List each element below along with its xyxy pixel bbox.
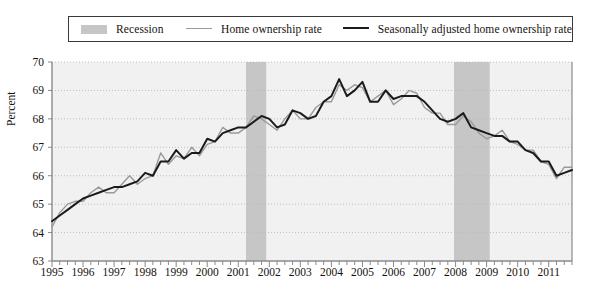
x-tick-label-2005: 2005 [351,266,374,278]
y-tick-label-65: 65 [20,198,44,210]
figure: Recession Home ownership rate Seasonally… [0,0,592,292]
x-tick-label-1997: 1997 [103,266,126,278]
x-tick-label-1996: 1996 [72,266,95,278]
x-tick-label-2002: 2002 [258,266,281,278]
plot-background [52,62,572,261]
x-tick-label-2000: 2000 [196,266,219,278]
x-tick-label-2011: 2011 [537,266,560,278]
recession-2008 [454,62,490,261]
plot-background-group [52,62,572,261]
y-tick-label-66: 66 [20,170,44,182]
x-tick-label-2009: 2009 [475,266,498,278]
x-tick-label-2003: 2003 [289,266,312,278]
y-tick-label-64: 64 [20,227,44,239]
y-tick-label-68: 68 [20,113,44,125]
x-tick-label-2001: 2001 [227,266,250,278]
x-tick-label-1999: 1999 [165,266,188,278]
chart-canvas [0,0,592,292]
x-tick-label-1995: 1995 [41,266,64,278]
y-tick-label-69: 69 [20,84,44,96]
x-tick-label-2004: 2004 [320,266,343,278]
x-tick-label-1998: 1998 [134,266,157,278]
x-tick-label-2010: 2010 [506,266,529,278]
y-tick-label-67: 67 [20,141,44,153]
plot-area: 6364656667686970 19951996199719981999200… [0,0,592,292]
y-tick-label-70: 70 [20,56,44,68]
x-tick-label-2006: 2006 [382,266,405,278]
x-tick-label-2007: 2007 [413,266,436,278]
x-tick-label-2008: 2008 [444,266,467,278]
recession-2001 [246,62,266,261]
